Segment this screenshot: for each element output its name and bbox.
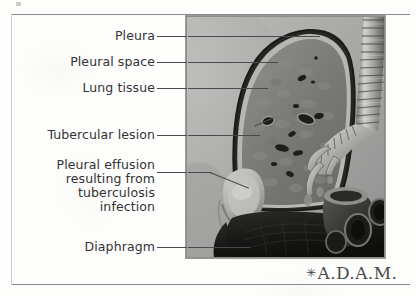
adam-logo: ✳A.D.A.M. xyxy=(306,263,397,283)
leader-line-pleura xyxy=(188,36,320,37)
page-rule-top xyxy=(11,14,410,15)
leader-line-diaphragm xyxy=(188,247,250,248)
leader-dash-pleural-effusion xyxy=(157,172,187,173)
leader-line-pleural-space xyxy=(188,62,278,63)
adam-logo-text: A.D.A.M. xyxy=(317,263,397,283)
page-rule-left xyxy=(11,14,12,285)
page-rule-bottom xyxy=(11,284,410,285)
leader-line-lung-tissue xyxy=(188,88,268,89)
leader-dash-tubercular-lesion xyxy=(157,135,187,136)
label-tubercular-lesion: Tubercular lesion xyxy=(47,128,155,142)
label-lung-tissue: Lung tissue xyxy=(82,81,155,95)
scan-artifact-speck xyxy=(16,2,21,6)
leader-dash-pleura xyxy=(157,36,187,37)
leader-line-pleural-effusion xyxy=(188,172,212,173)
label-pleural-effusion: Pleural effusion resulting from tubercul… xyxy=(57,158,155,214)
label-pleural-space: Pleural space xyxy=(70,55,155,69)
leader-dash-lung-tissue xyxy=(157,88,187,89)
illustration-panel xyxy=(186,16,385,258)
asterisk-icon: ✳ xyxy=(306,266,316,280)
leader-dash-pleural-space xyxy=(157,62,187,63)
label-pleura: Pleura xyxy=(115,29,155,43)
label-diaphragm: Diaphragm xyxy=(85,240,155,254)
leader-dash-diaphragm xyxy=(157,247,187,248)
leader-line-tubercular-lesion xyxy=(188,135,260,136)
